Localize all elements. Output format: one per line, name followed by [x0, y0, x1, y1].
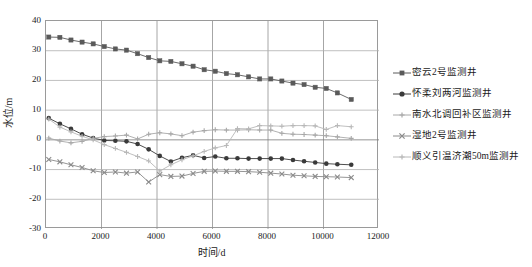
x-tick-2000: 2000 — [79, 232, 123, 241]
legend-label: 怀柔刘两河监测井 — [412, 88, 492, 99]
x-tick-4000: 4000 — [134, 232, 178, 241]
legend-label: 顺义引温济潮50m监测井 — [412, 151, 519, 162]
y-tick-30: 30 — [3, 45, 41, 54]
y-tick-20: 20 — [3, 75, 41, 84]
series-1 — [46, 116, 353, 167]
series-0 — [47, 35, 354, 102]
legend-label: 湿地2号监测井 — [412, 130, 477, 141]
x-axis-tick-labels: 020004000600080001000012000 — [45, 232, 378, 244]
legend-item-2[interactable]: 南水北调回补区监测井 — [392, 104, 532, 125]
legend-item-4[interactable]: 顺义引温济潮50m监测井 — [392, 146, 532, 167]
legend-label: 密云2号监测井 — [412, 67, 477, 78]
y-axis-title: 水位/m — [4, 90, 14, 136]
legend: 密云2号监测井怀柔刘两河监测井南水北调回补区监测井湿地2号监测井顺义引温济潮50… — [392, 62, 532, 167]
y-tick-40: 40 — [3, 16, 41, 25]
legend-marker-icon — [392, 130, 412, 142]
x-tick-8000: 8000 — [245, 232, 289, 241]
legend-item-3[interactable]: 湿地2号监测井 — [392, 125, 532, 146]
chart-figure: 403020100-10-20-30 020004000600080001000… — [0, 0, 532, 267]
data-series-layer — [46, 21, 379, 229]
legend-marker-icon — [392, 109, 412, 121]
x-axis-title: 时间/d — [45, 248, 378, 258]
x-tick-12000: 12000 — [356, 232, 400, 241]
legend-marker-icon — [392, 88, 412, 100]
legend-label: 南水北调回补区监测井 — [412, 109, 512, 120]
series-4 — [46, 117, 353, 174]
legend-item-0[interactable]: 密云2号监测井 — [392, 62, 532, 83]
legend-item-1[interactable]: 怀柔刘两河监测井 — [392, 83, 532, 104]
x-tick-6000: 6000 — [190, 232, 234, 241]
x-tick-10000: 10000 — [301, 232, 345, 241]
y-tick--10: -10 — [3, 164, 41, 173]
x-tick-0: 0 — [23, 232, 67, 241]
y-tick--20: -20 — [3, 194, 41, 203]
plot-area — [45, 20, 378, 228]
legend-marker-icon — [392, 67, 412, 79]
legend-marker-icon — [392, 151, 412, 163]
